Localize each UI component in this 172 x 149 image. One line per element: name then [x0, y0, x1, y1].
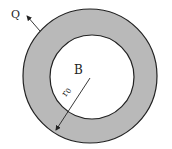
inner-region-label: B	[74, 63, 83, 77]
annulus-diagram: Q B r0	[0, 0, 172, 149]
heat-flux-label: Q	[11, 8, 20, 21]
inner-region	[50, 35, 134, 119]
heat-flux-arrow	[27, 16, 40, 31]
